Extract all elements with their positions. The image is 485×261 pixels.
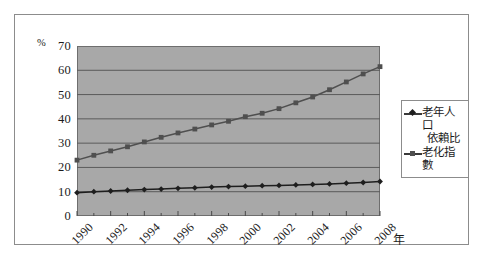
x-tick-label: 2002 [270, 220, 298, 248]
x-tick-label: 1990 [68, 220, 96, 248]
series-layer [77, 46, 380, 216]
x-tick-label: 1998 [203, 220, 231, 248]
legend-label-line1: 老年人口 [422, 106, 456, 131]
legend: 老年人口依賴比 老化指數 [401, 100, 469, 178]
y-tick-label: 40 [58, 111, 71, 126]
legend-item-label: 老年人口依賴比 [422, 106, 465, 145]
diamond-marker-icon [404, 107, 422, 120]
y-tick-label: 30 [58, 136, 71, 151]
plot-area-wrapper [77, 46, 380, 216]
x-tick-label: 1996 [169, 220, 197, 248]
y-tick-label: 70 [58, 39, 71, 54]
y-axis-labels: 706050403020100 [39, 46, 75, 216]
x-tick-label: 2000 [237, 220, 265, 248]
chart-frame: % 706050403020100 1990199219941996199820… [14, 14, 469, 245]
x-axis-title: 年 [393, 230, 405, 248]
square-marker-icon [404, 147, 422, 160]
legend-item-elderly-dependency-ratio[interactable]: 老年人口依賴比 [404, 106, 465, 145]
legend-item-aging-index[interactable]: 老化指數 [404, 146, 465, 172]
x-tick-label: 1994 [136, 220, 164, 248]
y-tick-label: 0 [64, 209, 71, 224]
y-tick-label: 10 [58, 184, 71, 199]
y-tick-label: 20 [58, 160, 71, 175]
y-tick-label: 60 [58, 63, 71, 78]
y-tick-label: 50 [58, 87, 71, 102]
x-tick-label: 2006 [338, 220, 366, 248]
x-tick-label: 2004 [304, 220, 332, 248]
legend-item-label: 老化指數 [422, 146, 465, 172]
legend-label-line2: 依賴比 [422, 132, 465, 145]
x-tick-label: 1992 [102, 220, 130, 248]
x-axis-labels: 1990199219941996199820002002200420062008 [77, 218, 380, 260]
